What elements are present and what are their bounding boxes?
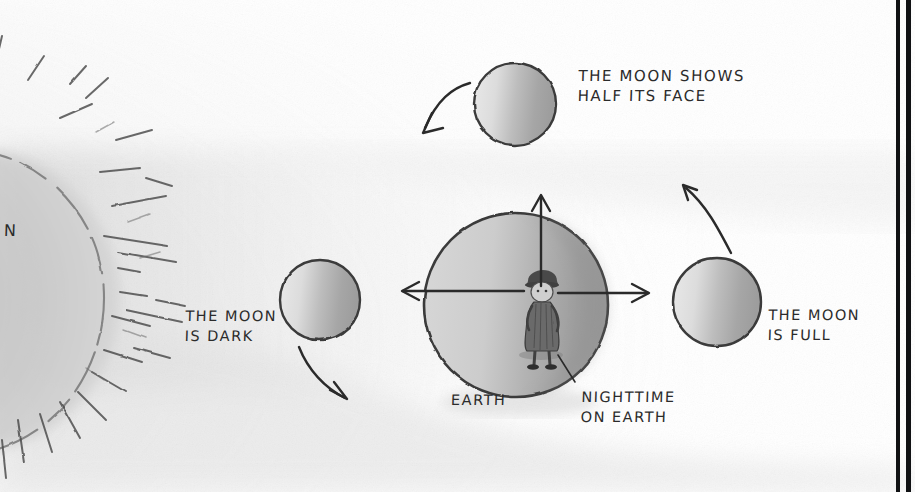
sun-label: N	[4, 221, 19, 241]
earth-label: EARTH	[451, 390, 507, 410]
moon-half-label: THE MOON SHOWS HALF ITS FACE	[577, 66, 745, 106]
moon-dark	[280, 260, 360, 340]
page-edge-outer	[906, 0, 911, 492]
moon-full-label: THE MOON IS FULL	[767, 305, 860, 345]
child-eye-left	[537, 290, 540, 293]
child-shoe-right	[545, 364, 557, 370]
moon-full	[673, 258, 761, 346]
moon-phases-diagram: N THE MOON SHOWS HALF ITS FACE THE MOON …	[0, 0, 915, 492]
moon-half	[474, 63, 556, 145]
page-edge-inner	[896, 0, 900, 492]
diagram-canvas	[0, 0, 915, 492]
child-eye-right	[545, 290, 548, 293]
nighttime-label: NIGHTTIME ON EARTH	[580, 387, 676, 427]
child-shoe-left	[527, 364, 539, 370]
moon-dark-label: THE MOON IS DARK	[184, 306, 277, 346]
